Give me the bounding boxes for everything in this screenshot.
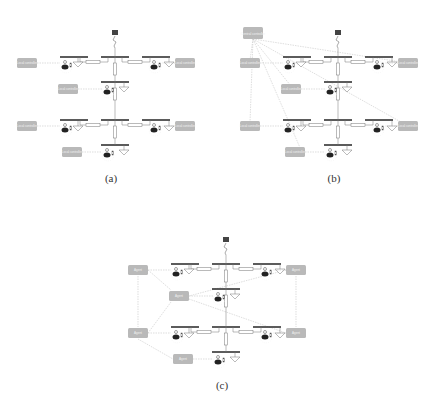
controller-label: Agent [179,357,187,361]
controller-label: Agent [134,331,142,335]
impedance [351,124,365,127]
battery-icon [382,126,384,130]
controller-label: Local controller [175,61,195,65]
grid-connection-icon [113,36,116,48]
central-link [253,39,408,63]
caption-a: (a) [91,172,131,184]
load-icon [230,357,240,362]
impedance [114,88,117,100]
comm-link [189,299,286,333]
impedance [239,331,253,334]
battery-icon [159,63,161,67]
load-icon [184,269,194,274]
grid-connection-icon [224,243,227,255]
impedance [225,270,228,282]
controller-label: Local controller [240,61,260,65]
controller-label: Agent [175,294,183,298]
controller-label: Local controller [17,61,37,65]
load-icon [119,150,129,155]
impedance [337,63,340,75]
battery-icon [293,63,295,67]
central-controller-label: Central controller [241,32,266,36]
load-icon [296,126,306,131]
impedance [337,88,340,100]
impedance [309,61,323,64]
controller-label: Local controller [62,150,82,154]
generator-icon [173,335,180,340]
controller-label: Local controller [17,124,37,128]
load-icon [275,333,285,338]
caption-c: (c) [202,379,242,391]
controller-label: Local controller [285,150,305,154]
panel-b: Central controllerLocal controllerLocal … [240,27,418,161]
controller-label: Local controller [398,124,418,128]
generator-icon [327,153,334,158]
generator-icon [104,153,111,158]
generator-icon [285,128,292,133]
load-icon [164,126,174,131]
battery-icon [159,126,161,130]
load-icon [230,294,240,299]
generator-icon [374,128,381,133]
impedance [337,126,340,138]
comm-link [148,302,171,333]
impedance [225,295,228,307]
caption-b: (b) [314,172,354,184]
generator-icon [374,65,381,70]
comm-link [138,339,173,359]
grid-connection-icon [336,36,339,48]
generator-icon [104,90,111,95]
load-icon [342,150,352,155]
load-icon [184,333,194,338]
central-link [253,39,301,150]
generator-icon [262,272,269,277]
battery-icon [70,126,72,130]
impedance [309,124,323,127]
substation-icon [335,30,341,35]
battery-icon [270,270,272,274]
load-icon [387,126,397,131]
controller-label: Agent [292,331,300,335]
load-icon [296,62,306,67]
microgrid-diagram: Local controllerLocal controllerLocal co… [0,0,446,410]
impedance [128,61,142,64]
generator-icon [151,128,158,133]
battery-icon [112,151,114,155]
controller-label: Local controller [58,87,78,91]
impedance [114,63,117,75]
generator-icon [173,272,180,277]
panel-a: Local controllerLocal controllerLocal co… [17,30,195,161]
impedance [239,268,253,271]
battery-icon [70,63,72,67]
impedance [86,61,100,64]
generator-icon [62,65,69,70]
generator-icon [62,128,69,133]
comm-link [148,270,171,290]
controller-label: Local controller [240,124,260,128]
controller-label: Agent [292,268,300,272]
generator-icon [327,90,334,95]
load-icon [73,126,83,131]
controller-label: Agent [134,268,142,272]
impedance [197,268,211,271]
impedance [197,331,211,334]
panel-c: AgentAgentAgentAgentAgentAgent [128,237,306,368]
controller-label: Local controller [281,87,301,91]
battery-icon [223,358,225,362]
substation-icon [223,237,229,242]
controller-label: Local controller [175,124,195,128]
load-icon [119,87,129,92]
battery-icon [293,126,295,130]
generator-icon [285,65,292,70]
impedance [128,124,142,127]
generator-icon [215,297,222,302]
battery-icon [181,333,183,337]
load-icon [73,62,83,67]
generator-icon [151,65,158,70]
battery-icon [181,270,183,274]
generator-icon [262,335,269,340]
impedance [225,333,228,345]
impedance [114,126,117,138]
substation-icon [112,30,118,35]
impedance [351,61,365,64]
